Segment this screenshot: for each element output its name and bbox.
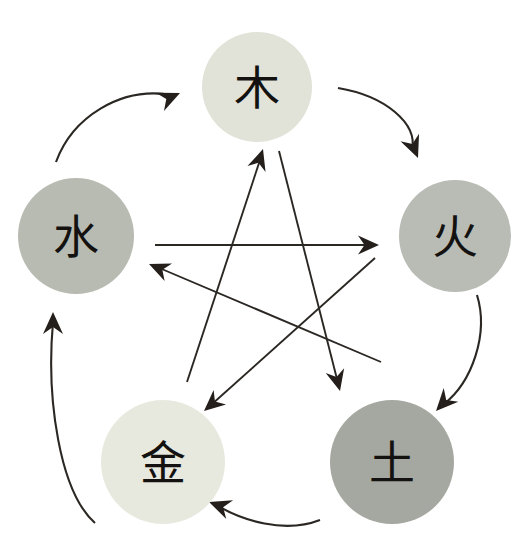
star-water-to-fire: [155, 236, 379, 255]
arrow-head-water-to-wood: [156, 84, 184, 111]
element-label-wood: 木: [234, 61, 280, 115]
element-label-water: 水: [53, 210, 99, 264]
arrow-head-wood-to-earth: [326, 368, 350, 393]
element-node-earth[interactable]: 土: [330, 400, 454, 524]
star-wood-to-earth: [279, 151, 349, 393]
star-line-earth-to-water: [211, 258, 375, 405]
star-fire-to-metal: [145, 255, 381, 362]
element-node-fire[interactable]: 火: [399, 180, 511, 292]
arc-path-wood-to-fire: [338, 88, 413, 150]
overcoming-cycle-group: [145, 146, 381, 418]
element-nodes-group: 木火土金水: [18, 32, 511, 524]
arc-water-to-wood: [56, 84, 184, 162]
arrow-head-metal-to-wood: [247, 146, 272, 172]
arrow-head-fire-to-earth: [429, 388, 459, 418]
arc-path-earth-to-metal: [218, 506, 320, 526]
element-node-metal[interactable]: 金: [101, 400, 225, 524]
arc-metal-to-water: [43, 312, 95, 523]
arc-path-fire-to-earth: [444, 295, 481, 404]
star-line-wood-to-earth: [279, 151, 338, 383]
wuxing-canvas: 木火土金水: [0, 0, 523, 557]
star-earth-to-water: [198, 258, 375, 418]
element-label-earth: 土: [369, 436, 415, 490]
star-line-fire-to-metal: [157, 267, 381, 362]
arrow-head-wood-to-fire: [400, 134, 427, 162]
star-metal-to-wood: [187, 146, 272, 382]
element-label-fire: 火: [432, 210, 478, 264]
arc-path-metal-to-water: [51, 322, 95, 523]
arrow-head-fire-to-metal: [145, 255, 172, 281]
element-node-water[interactable]: 水: [18, 178, 134, 294]
wuxing-diagram: 木火土金水: [0, 0, 523, 557]
star-line-metal-to-wood: [187, 157, 261, 382]
element-label-metal: 金: [140, 436, 186, 490]
arc-earth-to-metal: [206, 493, 320, 526]
arc-wood-to-fire: [338, 88, 427, 162]
arc-fire-to-earth: [429, 295, 481, 418]
element-node-wood[interactable]: 木: [202, 32, 312, 142]
arc-path-water-to-wood: [56, 93, 172, 162]
